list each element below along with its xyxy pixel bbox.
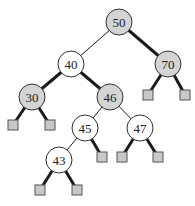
tree-node-43: 43 [46, 147, 72, 173]
tree-node-70: 70 [155, 51, 181, 77]
tree-node-50: 50 [106, 9, 132, 35]
nil-leaf-square [117, 152, 127, 162]
node-label: 50 [113, 15, 126, 30]
node-label: 30 [26, 90, 39, 105]
tree-nodes: 5040703046454743 [19, 9, 181, 173]
nil-leaf-square [35, 185, 45, 195]
tree-node-46: 46 [97, 84, 123, 110]
red-black-tree-diagram: 5040703046454743 [0, 0, 195, 206]
tree-node-40: 40 [58, 51, 84, 77]
nil-leaf-square [8, 120, 18, 130]
node-label: 40 [65, 57, 78, 72]
tree-node-45: 45 [72, 115, 98, 141]
node-label: 43 [53, 153, 66, 168]
tree-node-30: 30 [19, 84, 45, 110]
node-label: 47 [134, 121, 148, 136]
nil-leaf-square [143, 90, 153, 100]
node-label: 70 [162, 57, 175, 72]
node-label: 45 [79, 121, 92, 136]
nil-leaf-square [45, 120, 55, 130]
nil-leaf-square [97, 152, 107, 162]
node-label: 46 [104, 90, 118, 105]
nil-leaf-square [180, 90, 190, 100]
tree-node-47: 47 [127, 115, 153, 141]
nil-leaf-square [72, 185, 82, 195]
nil-leaf-square [153, 152, 163, 162]
